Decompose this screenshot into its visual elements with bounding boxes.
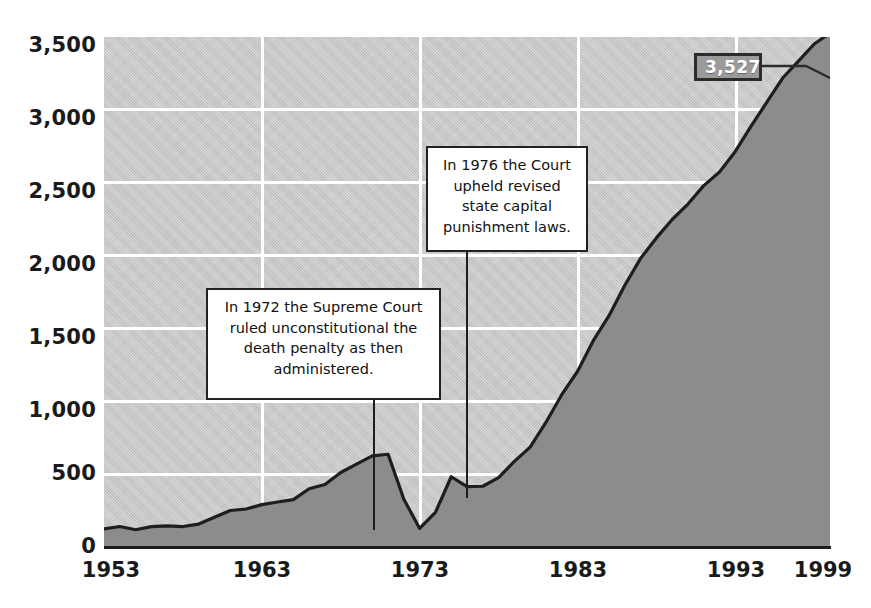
x-tick-1999: 1999	[794, 558, 852, 582]
annotation-1972-text: In 1972 the Supreme Court ruled unconsti…	[225, 299, 423, 377]
x-axis-line	[104, 546, 831, 549]
y-tick-1500: 1,500	[10, 325, 96, 349]
y-tick-3000: 3,000	[10, 106, 96, 130]
end-value-leader	[756, 50, 836, 90]
x-tick-1973: 1973	[391, 558, 449, 582]
y-tick-1000: 1,000	[10, 398, 96, 422]
x-tick-1983: 1983	[549, 558, 607, 582]
y-tick-0: 0	[10, 534, 96, 558]
y-tick-500: 500	[10, 461, 96, 485]
annotation-1976-text: In 1976 the Court upheld revised state c…	[443, 157, 571, 235]
y-tick-2000: 2,000	[10, 252, 96, 276]
chart-canvas: 3,500 3,000 2,500 2,000 1,500 1,000 500 …	[0, 0, 871, 608]
annotation-1972-leader	[373, 400, 375, 530]
annotation-1976-callout: In 1976 the Court upheld revised state c…	[426, 146, 588, 252]
annotation-1972-callout: In 1972 the Supreme Court ruled unconsti…	[206, 288, 441, 400]
y-axis-labels: 3,500 3,000 2,500 2,000 1,500 1,000 500 …	[0, 0, 96, 608]
annotation-1976-leader	[466, 252, 468, 498]
x-tick-1963: 1963	[233, 558, 291, 582]
x-tick-1953: 1953	[82, 558, 140, 582]
end-value-label: 3,527	[694, 53, 762, 81]
x-tick-1993: 1993	[707, 558, 765, 582]
y-tick-3500: 3,500	[10, 33, 96, 57]
y-tick-2500: 2,500	[10, 179, 96, 203]
